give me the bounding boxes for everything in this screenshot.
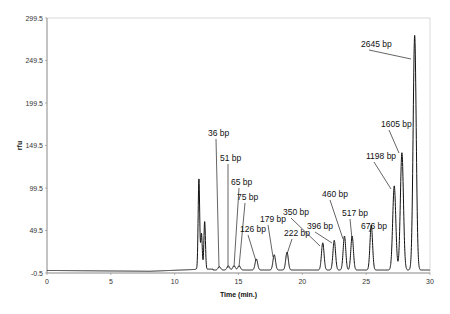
x-axis-label: Time (min.) xyxy=(220,291,257,299)
y-tick-label: 99.5 xyxy=(29,185,43,192)
peak-label: 2645 bp xyxy=(361,39,392,49)
x-tick-label: 10 xyxy=(171,278,179,285)
peak-label: 1605 bp xyxy=(381,119,412,129)
peak-label: 350 bp xyxy=(283,207,309,217)
peak-label: 396 bp xyxy=(307,221,333,231)
peak-label: 460 bp xyxy=(322,189,348,199)
y-tick-label: 199.5 xyxy=(25,100,43,107)
y-axis-label: rfu xyxy=(16,141,23,150)
y-tick-label: 299.5 xyxy=(25,15,43,22)
peak-label: 65 bp xyxy=(231,177,253,187)
peak-label: 36 bp xyxy=(208,128,230,138)
peak-label: 126 bp xyxy=(240,224,266,234)
peak-labels: 36 bp51 bp65 bp75 bp126 bp179 bp222 bp35… xyxy=(208,39,412,238)
peak-label: 676 bp xyxy=(361,221,387,231)
peak-label: 517 bp xyxy=(342,208,368,218)
x-tick-label: 25 xyxy=(362,278,370,285)
x-tick-label: 15 xyxy=(235,278,243,285)
x-tick-label: 0 xyxy=(45,278,49,285)
x-tick-label: 20 xyxy=(298,278,306,285)
y-tick-label: 249.5 xyxy=(25,57,43,64)
y-axis-ticks: -0.549.599.5149.5199.5249.5299.5 xyxy=(25,15,47,277)
x-tick-label: 5 xyxy=(109,278,113,285)
peak-label: 1198 bp xyxy=(366,151,396,161)
peak-label: 75 bp xyxy=(237,192,259,202)
y-tick-label: 149.5 xyxy=(25,142,43,149)
peak-label: 51 bp xyxy=(220,153,242,163)
x-tick-label: 30 xyxy=(426,278,434,285)
electropherogram-chart: -0.549.599.5149.5199.5249.5299.5 0510152… xyxy=(0,0,450,314)
x-axis-ticks: 051015202530 xyxy=(45,273,434,285)
y-tick-label: -0.5 xyxy=(31,270,43,277)
y-tick-label: 49.5 xyxy=(29,227,43,234)
